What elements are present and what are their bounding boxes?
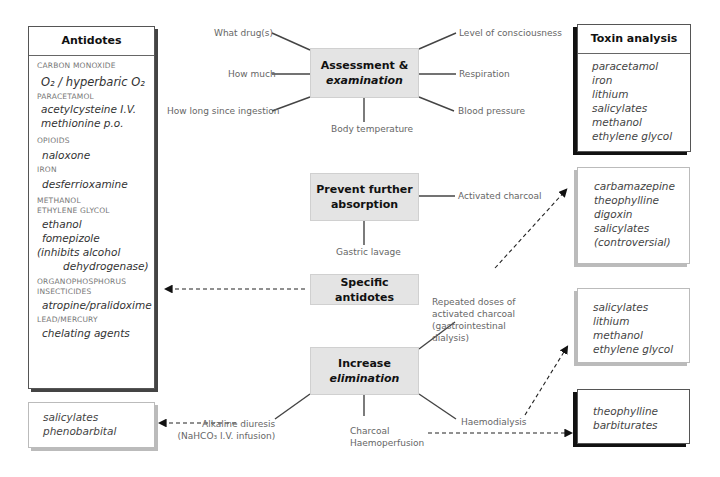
- label-respiration: Respiration: [459, 69, 510, 80]
- repeated-charcoal-toxins-box: carbamazepine theophylline digoxin salic…: [577, 167, 690, 264]
- antidote-group-paracetamol: PARACETAMOL acetylcysteine I.V. methioni…: [37, 92, 154, 130]
- label-blood-pressure: Blood pressure: [458, 106, 525, 117]
- label-how-long: How long since ingestion: [167, 106, 279, 117]
- haemodialysis-toxins-box: salicylates lithium methanol ethylene gl…: [577, 288, 690, 363]
- label-consciousness: Level of consciousness: [459, 28, 562, 39]
- specific-antidotes-label: Specific antidotes: [311, 275, 418, 305]
- antidote-group-iron: IRON desferrioxamine: [37, 165, 154, 191]
- antidotes-panel: Antidotes CARBON MONOXIDE O₂ / hyperbari…: [28, 26, 155, 389]
- label-gastric-lavage: Gastric lavage: [336, 247, 401, 258]
- specific-antidotes-box: Specific antidotes: [310, 274, 419, 305]
- alkaline-diuresis-toxins-box: salicylates phenobarbital: [28, 402, 155, 448]
- label-alkaline-diuresis: Alkaline diuresis (NaHCO₃ I.V. infusion): [177, 418, 275, 442]
- label-body-temperature: Body temperature: [331, 124, 413, 135]
- prevent-line2: absorption: [316, 197, 413, 212]
- antidote-group-opioids: OPIOIDS naloxone: [37, 136, 154, 162]
- prevent-line1: Prevent further: [316, 182, 413, 197]
- assessment-line1: Assessment &: [321, 58, 409, 73]
- assessment-line2: examination: [321, 73, 409, 88]
- antidote-group-lead-mercury: LEAD/MERCURY chelating agents: [37, 315, 154, 340]
- toxin-analysis-title: Toxin analysis: [578, 25, 690, 54]
- label-repeated-charcoal: Repeated doses of activated charcoal (ga…: [432, 296, 515, 344]
- antidote-group-organophosphorus: ORGANOPHOSPHORUS INSECTICIDES atropine/p…: [37, 277, 154, 312]
- prevent-absorption-box: Prevent further absorption: [310, 173, 419, 221]
- antidote-group-methanol: METHANOL ETHYLENE GLYCOL ethanol fomepiz…: [37, 196, 154, 273]
- label-activated-charcoal: Activated charcoal: [458, 191, 542, 202]
- label-what-drug: What drug(s): [214, 28, 273, 39]
- haemoperfusion-toxins-box: theophylline barbiturates: [577, 389, 690, 444]
- increase-elimination-box: Increase elimination: [310, 347, 419, 395]
- toxin-analysis-panel: Toxin analysis paracetamol iron lithium …: [577, 24, 691, 152]
- assessment-box: Assessment & examination: [310, 48, 419, 98]
- elimination-line1: Increase: [330, 356, 400, 371]
- elimination-line2: elimination: [330, 371, 400, 386]
- label-charcoal-haemoperfusion: Charcoal Haemoperfusion: [350, 425, 424, 449]
- antidotes-title: Antidotes: [29, 27, 154, 56]
- label-haemodialysis: Haemodialysis: [461, 417, 527, 428]
- antidote-group-carbon-monoxide: CARBON MONOXIDE O₂ / hyperbaric O₂: [37, 61, 154, 92]
- label-how-much: How much: [228, 69, 276, 80]
